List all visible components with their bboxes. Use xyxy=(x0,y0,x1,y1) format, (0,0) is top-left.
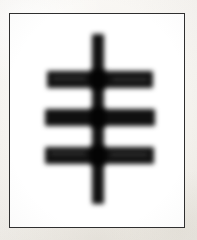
scanned-image-canvas: Blurry scanned image of a dark glyph: on… xyxy=(0,0,197,240)
glyph-border-frame xyxy=(9,13,185,228)
image-alt-text: Blurry scanned image of a dark glyph: on… xyxy=(0,0,1,1)
